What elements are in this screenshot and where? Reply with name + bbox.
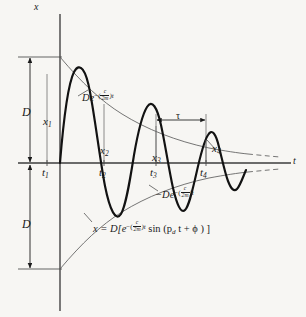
lower-envelope-exp-close: )t <box>190 189 194 196</box>
lower-envelope-fraction: c2m <box>181 186 190 198</box>
lower-envelope-frac-denominator: 2m <box>181 193 190 199</box>
lower-envelope-exponent: −(c2m)t <box>174 189 193 196</box>
peak-amplitude-label-x3: x3 <box>152 152 161 165</box>
dimension-label-upper-D: D <box>22 106 31 118</box>
equation-leader <box>84 213 92 222</box>
lower-envelope-curve-dashed-tail <box>248 169 280 172</box>
peak-amplitude-label-x2: x2 <box>100 145 109 158</box>
peak-amplitude-subscript-x3: 3 <box>157 156 161 165</box>
upper-envelope-exponent: −(c2m)t <box>94 92 113 99</box>
peak-amplitude-label-x4: x4 <box>212 143 221 156</box>
peak-time-subscript-t3: 3 <box>153 171 157 180</box>
upper-envelope-annotation: De−(c2m)t <box>82 89 114 104</box>
peak-time-subscript-t1: 1 <box>45 171 49 180</box>
upper-envelope-lead: De <box>82 92 94 103</box>
peak-amplitude-subscript-x1: 1 <box>48 120 52 129</box>
equation-lhs: x = D[e <box>93 223 126 234</box>
peak-amplitude-subscript-x2: 2 <box>105 149 109 158</box>
peak-amplitude-subscript-x4: 4 <box>217 147 221 156</box>
upper-envelope-exp-close: )t <box>109 92 113 99</box>
equation-exponent: −(c2m)t <box>126 223 145 230</box>
peak-time-label-t1: t1 <box>42 167 49 180</box>
axis-label-x: x <box>34 2 38 12</box>
lower-envelope-annotation: −De−(c2m)t <box>155 186 194 201</box>
equation-rhs: sin (p <box>146 223 172 234</box>
peak-time-label-t2: t2 <box>99 167 106 180</box>
axis-label-t: t <box>293 156 296 166</box>
period-label-tau: τ <box>176 111 180 121</box>
response-equation-annotation: x = D[e−(c2m)t sin (pd t + ϕ ) ] <box>93 220 210 236</box>
peak-time-subscript-t4: 4 <box>203 171 207 180</box>
upper-envelope-curve-dashed-tail <box>248 154 280 157</box>
dimension-label-lower-D: D <box>22 218 31 230</box>
peak-time-label-t3: t3 <box>150 167 157 180</box>
peak-amplitude-label-x1: x1 <box>43 116 52 129</box>
lower-envelope-lead: −De <box>155 189 174 200</box>
peak-time-subscript-t2: 2 <box>102 171 106 180</box>
damped-vibration-figure: x t D D τ x1 x2 x3 x4 t1 t2 t3 t4 De−(c2… <box>0 0 306 317</box>
peak-time-label-t4: t4 <box>200 167 207 180</box>
equation-rhs-tail: t + ϕ ) ] <box>176 223 210 234</box>
